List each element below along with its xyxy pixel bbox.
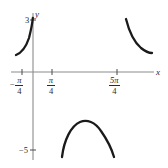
fraction-denominator: 4 [17,86,21,95]
x-axis-label: x [155,67,160,77]
fraction: π 4 [15,76,23,95]
fraction-denominator: 4 [49,86,53,95]
x-tick-label-pi-over-4: π 4 [47,76,55,95]
y-tick-label-3: 3 [25,16,29,25]
fraction-numerator: π [48,76,54,85]
fraction-numerator: 5π [109,76,120,85]
curve-branch-bottom-arch [62,121,114,157]
fraction: 5π 4 [109,76,120,95]
x-tick-label-5pi-over-4: 5π 4 [109,76,120,95]
fraction-denominator: 4 [112,86,116,95]
fraction-numerator: π [16,76,22,85]
y-axis-label: y [34,9,39,19]
graph-figure: x y − π 4 π 4 5π 4 3 −5 [0,0,168,168]
y-tick-label-neg-5: −5 [19,146,28,155]
fraction: π 4 [47,76,55,95]
plot-canvas: x y [0,0,168,168]
x-tick-label-neg-pi-over-4: − π 4 [10,76,23,95]
curve-branch-right-falling [126,19,152,53]
